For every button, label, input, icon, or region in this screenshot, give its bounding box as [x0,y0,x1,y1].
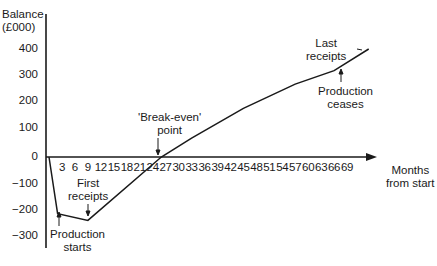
y-tick: 300 [4,68,38,80]
annotation-break-even: 'Break-even' point [138,111,201,137]
y-tick: 100 [4,121,38,133]
annotation-line: starts [50,241,105,254]
annotation-line: receipts [306,50,346,63]
y-tick: 0 [4,150,38,162]
x-axis-label-line1: Months [386,164,435,177]
annotation-line: point [138,124,201,137]
annotation-line: Production [50,228,105,241]
x-tick: 69 [339,161,355,173]
y-axis-label-line2: (£000) [2,21,44,34]
annotation-line: receipts [68,190,108,203]
y-axis-label: Balance (£000) [2,8,44,34]
x-axis-label: Months from start [386,164,435,190]
y-tick: 200 [4,94,38,106]
y-tick: −300 [4,229,38,241]
y-axis-label-line1: Balance [2,8,44,21]
y-tick: −200 [4,203,38,215]
chart-canvas [0,0,437,266]
x-axis-label-line2: from start [386,177,435,190]
annotation-production-ceases: Production ceases [318,85,373,111]
annotation-first-receipts: First receipts [68,177,108,203]
annotation-line: Last [306,37,346,50]
y-tick: 400 [4,42,38,54]
annotation-line: First [68,177,108,190]
annotation-line: ceases [318,98,373,111]
annotation-line: 'Break-even' [138,111,201,124]
x-axis-arrow-icon [366,153,377,161]
annotation-line: Production [318,85,373,98]
annotation-last-receipts: Last receipts [306,37,346,63]
annotation-production-starts: Production starts [50,228,105,254]
y-tick: −100 [4,177,38,189]
